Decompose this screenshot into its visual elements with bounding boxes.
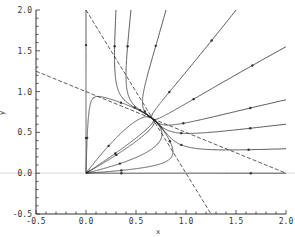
direction-marker	[169, 140, 171, 142]
phase-portrait-chart: -0.50.00.51.01.52.0-0.50.00.51.01.52.0 x…	[0, 0, 295, 237]
axes: -0.50.00.51.01.52.0-0.50.00.51.01.52.0	[13, 6, 294, 226]
direction-marker	[86, 137, 88, 139]
x-tick-label: 2.0	[279, 217, 294, 226]
trajectories	[85, 10, 286, 174]
direction-marker	[155, 45, 157, 47]
x-tick-label: 0.0	[79, 217, 94, 226]
trajectory-curve	[86, 119, 162, 173]
trajectory-curve	[153, 100, 286, 125]
direction-marker	[192, 98, 194, 100]
direction-marker	[247, 149, 249, 151]
trajectory-curve	[126, 10, 153, 119]
direction-marker	[120, 169, 122, 171]
direction-marker	[210, 39, 212, 41]
trajectory-curve	[153, 119, 286, 150]
direction-marker	[126, 45, 128, 47]
direction-marker	[180, 132, 182, 134]
trajectory-curve	[153, 47, 286, 120]
direction-marker	[107, 145, 109, 147]
trajectory-curve	[152, 10, 237, 119]
direction-marker	[119, 162, 121, 164]
trajectory-curve	[143, 10, 167, 119]
x-nullcline-line	[86, 10, 211, 214]
nullclines	[36, 10, 286, 214]
direction-marker	[114, 152, 116, 154]
x-tick-label: 1.0	[179, 217, 194, 226]
direction-marker	[168, 91, 170, 93]
trajectory-curve	[86, 119, 154, 173]
direction-marker	[249, 127, 251, 129]
y-tick-label: 0.0	[18, 169, 33, 178]
direction-marker	[113, 45, 115, 47]
direction-marker	[180, 144, 182, 146]
x-axis-label: x	[156, 228, 160, 236]
direction-marker	[85, 44, 87, 46]
x-tick-label: 1.5	[229, 217, 244, 226]
y-axis-label: y	[0, 111, 6, 115]
trajectory-curve	[86, 117, 153, 174]
y-tick-label: 1.5	[18, 47, 33, 56]
trajectory-curve	[86, 119, 155, 173]
direction-marker	[249, 107, 251, 109]
direction-marker	[120, 101, 122, 103]
y-nullcline-line	[36, 71, 286, 173]
direction-marker	[250, 172, 252, 174]
y-tick-label: 0.5	[18, 128, 33, 137]
direction-marker	[182, 122, 184, 124]
y-tick-label: 1.0	[18, 88, 33, 97]
x-tick-label: 0.5	[129, 217, 144, 226]
trajectory-curve	[153, 119, 286, 133]
y-tick-label: 2.0	[18, 6, 33, 15]
direction-marker	[251, 64, 253, 66]
direction-marker	[120, 172, 122, 174]
y-tick-label: -0.5	[13, 210, 32, 219]
